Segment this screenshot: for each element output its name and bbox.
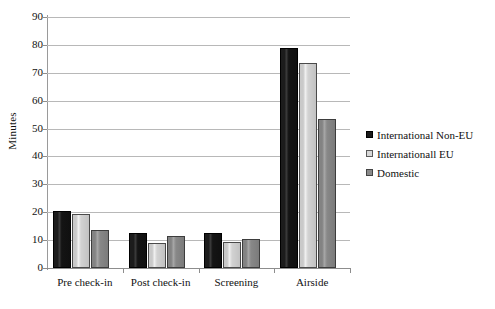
x-axis-category-label: Airside <box>274 276 350 288</box>
y-tick-label: 0 <box>13 261 43 273</box>
bar <box>148 243 166 268</box>
gridline <box>47 45 350 46</box>
y-tick-label: 80 <box>13 38 43 50</box>
x-tick-mark <box>123 268 124 273</box>
legend-label: Internationall EU <box>377 148 454 160</box>
bar <box>318 119 336 268</box>
bar <box>242 239 260 268</box>
bar <box>223 242 241 268</box>
y-tick-label: 90 <box>13 10 43 22</box>
y-tick-label: 30 <box>13 177 43 189</box>
bar <box>299 63 317 268</box>
bar <box>91 230 109 268</box>
legend-label: Domestic <box>377 167 419 179</box>
bar-chart: Minutes 9080706050403020100 Pre check-in… <box>0 0 495 309</box>
x-axis-category-label: Pre check-in <box>47 276 123 288</box>
legend-label: International Non-EU <box>377 129 473 141</box>
y-tick-label: 70 <box>13 66 43 78</box>
y-tick-label: 50 <box>13 122 43 134</box>
y-tick-mark <box>42 73 47 74</box>
x-tick-mark <box>350 268 351 273</box>
x-axis-category-label: Screening <box>199 276 275 288</box>
bar <box>167 236 185 268</box>
y-tick-mark <box>42 101 47 102</box>
legend-swatch-icon <box>366 169 373 176</box>
y-tick-mark <box>42 45 47 46</box>
legend: International Non-EUInternationall EUDom… <box>366 125 473 182</box>
bar <box>280 48 298 268</box>
legend-item[interactable]: International Non-EU <box>366 125 473 144</box>
y-tick-mark <box>42 184 47 185</box>
y-tick-label: 40 <box>13 149 43 161</box>
legend-item[interactable]: Internationall EU <box>366 144 473 163</box>
y-tick-label: 20 <box>13 205 43 217</box>
y-tick-mark <box>42 129 47 130</box>
bar <box>204 233 222 268</box>
x-tick-mark <box>274 268 275 273</box>
y-tick-mark <box>42 268 47 269</box>
y-tick-label: 60 <box>13 94 43 106</box>
y-tick-mark <box>42 17 47 18</box>
gridline <box>47 17 350 18</box>
legend-swatch-icon <box>366 150 373 157</box>
bar <box>53 211 71 268</box>
legend-swatch-icon <box>366 131 373 138</box>
bar <box>72 214 90 268</box>
x-axis-category-label: Post check-in <box>123 276 199 288</box>
y-tick-label: 10 <box>13 233 43 245</box>
y-tick-mark <box>42 212 47 213</box>
bar <box>129 233 147 268</box>
y-tick-mark <box>42 240 47 241</box>
y-tick-mark <box>42 156 47 157</box>
legend-item[interactable]: Domestic <box>366 163 473 182</box>
x-tick-mark <box>199 268 200 273</box>
